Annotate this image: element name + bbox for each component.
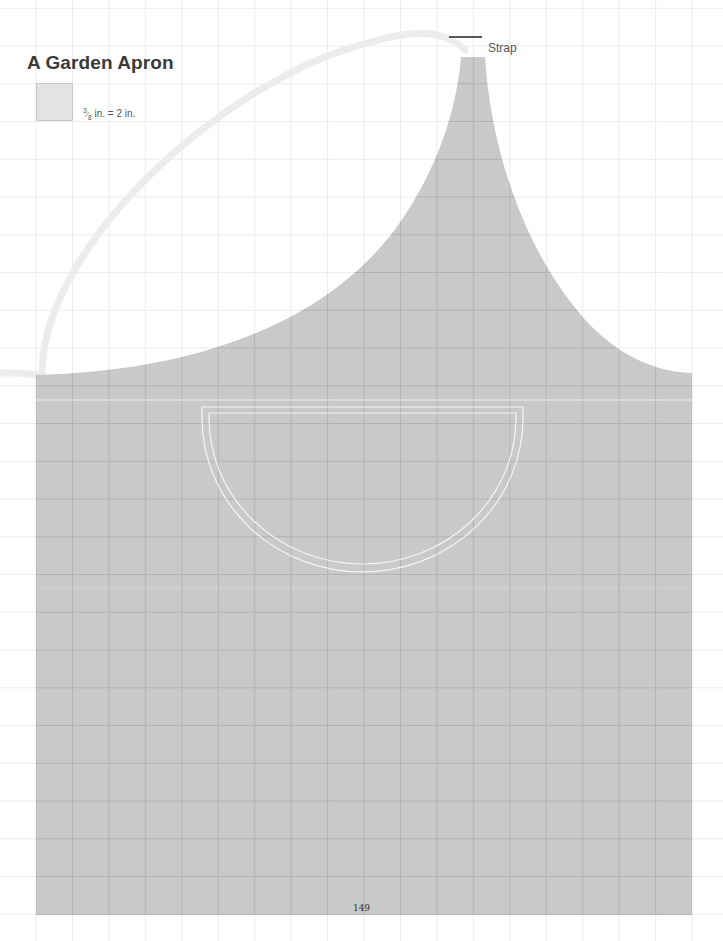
apron-pattern-diagram (0, 0, 723, 941)
scale-swatch (36, 83, 73, 121)
scale-fraction: 3⁄8 (83, 110, 92, 119)
page-number: 149 (353, 903, 370, 913)
page-number-wrap: 149 (0, 903, 723, 913)
scale-fraction-numerator: 3 (83, 107, 87, 114)
scale-label: 3⁄8 in. = 2 in. (83, 107, 135, 120)
strap-label: Strap (488, 41, 517, 55)
page-title: A Garden Apron (27, 52, 174, 74)
scale-label-text: in. = 2 in. (92, 108, 136, 119)
